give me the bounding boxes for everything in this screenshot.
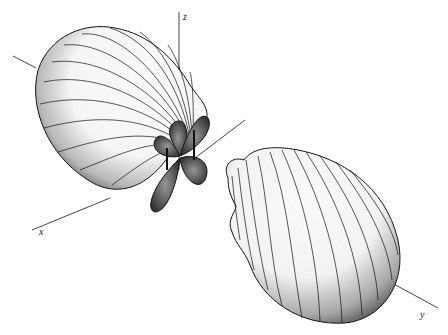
central-lobe-lower-right — [180, 157, 207, 185]
y-axis-label: y — [419, 309, 425, 320]
x-axis-label: x — [38, 226, 44, 237]
3d-lobe-diagram: z x y — [0, 0, 448, 335]
y-axis-line-end — [390, 282, 438, 308]
z-axis-label: z — [182, 11, 187, 22]
lower-right-lobe — [226, 148, 400, 324]
x-axis-line-lower — [32, 198, 110, 230]
x-axis-line-upper — [13, 56, 36, 68]
